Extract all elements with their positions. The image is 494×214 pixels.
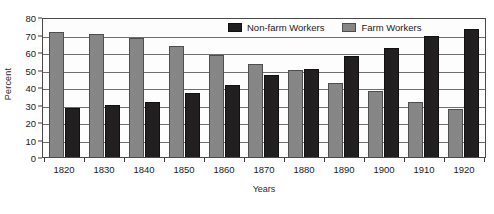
- x-tick-label: 1850: [164, 164, 204, 175]
- legend-label: Non-farm Workers: [247, 22, 324, 33]
- y-tick-label: 30: [25, 100, 36, 111]
- bar-nonfarm-1840: [145, 102, 160, 157]
- x-tick-mark: [364, 158, 365, 162]
- y-tick-label: 20: [25, 118, 36, 129]
- legend-label: Farm Workers: [361, 22, 421, 33]
- x-tick-mark: [124, 158, 125, 162]
- bar-nonfarm-1820: [65, 108, 80, 157]
- year-group-1820: [45, 19, 85, 157]
- year-group-1870: [244, 19, 284, 157]
- bar-farm-1890: [328, 83, 343, 157]
- x-tick-mark: [444, 158, 445, 162]
- x-tick-mark: [484, 158, 485, 162]
- bar-nonfarm-1850: [185, 93, 200, 157]
- bar-farm-1860: [209, 55, 224, 157]
- x-tick-label: 1860: [204, 164, 244, 175]
- bar-farm-1910: [408, 102, 423, 157]
- y-tick-label: 50: [25, 65, 36, 76]
- x-tick-label: 1870: [244, 164, 284, 175]
- year-group-1840: [125, 19, 165, 157]
- bar-farm-1870: [248, 64, 263, 157]
- year-group-1850: [164, 19, 204, 157]
- x-axis-title: Years: [42, 184, 486, 194]
- bar-nonfarm-1900: [384, 48, 399, 157]
- y-tick-label: 40: [25, 83, 36, 94]
- y-tick-label: 60: [25, 48, 36, 59]
- x-tick-label: 1840: [124, 164, 164, 175]
- x-tick-mark: [284, 158, 285, 162]
- x-tick-mark: [204, 158, 205, 162]
- x-axis-labels: 1820183018401850186018701880189019001910…: [42, 164, 486, 175]
- bar-nonfarm-1860: [225, 85, 240, 157]
- x-tick-label: 1890: [324, 164, 364, 175]
- x-tick-mark: [244, 158, 245, 162]
- year-group-1860: [204, 19, 244, 157]
- y-tick-label: 70: [25, 30, 36, 41]
- y-axis-ticks: 01020304050607080: [15, 18, 38, 158]
- bar-farm-1840: [129, 38, 144, 157]
- bar-farm-1830: [89, 34, 104, 157]
- year-group-1890: [324, 19, 364, 157]
- x-tick-label: 1830: [84, 164, 124, 175]
- bar-nonfarm-1910: [424, 36, 439, 157]
- year-group-1910: [403, 19, 443, 157]
- bar-nonfarm-1870: [264, 75, 279, 157]
- x-tick-label: 1820: [44, 164, 84, 175]
- y-tick-label: 80: [25, 13, 36, 24]
- x-tick-mark: [84, 158, 85, 162]
- bar-nonfarm-1880: [304, 69, 319, 157]
- bar-farm-1900: [368, 91, 383, 158]
- year-group-1900: [364, 19, 404, 157]
- x-tick-label: 1910: [404, 164, 444, 175]
- bar-nonfarm-1920: [464, 29, 479, 157]
- year-group-1880: [284, 19, 324, 157]
- bar-farm-1880: [288, 70, 303, 157]
- y-tick-label: 10: [25, 135, 36, 146]
- y-axis-title: Percent: [1, 0, 15, 168]
- legend-entry: Farm Workers: [342, 22, 421, 33]
- bar-chart: Percent 01020304050607080 Non-farm Worke…: [0, 0, 494, 214]
- bar-farm-1850: [169, 46, 184, 157]
- legend-entry: Non-farm Workers: [228, 22, 324, 33]
- x-tick-label: 1920: [444, 164, 484, 175]
- black-swatch-icon: [228, 23, 242, 32]
- legend: Non-farm WorkersFarm Workers: [228, 22, 421, 33]
- year-group-1830: [85, 19, 125, 157]
- x-tick-mark: [324, 158, 325, 162]
- x-tick-mark: [44, 158, 45, 162]
- x-tick-label: 1880: [284, 164, 324, 175]
- bars-layer: [43, 19, 485, 157]
- bar-nonfarm-1890: [344, 56, 359, 157]
- bar-nonfarm-1830: [105, 105, 120, 157]
- bar-farm-1920: [448, 109, 463, 157]
- x-axis-ticks: [42, 158, 486, 163]
- x-tick-mark: [404, 158, 405, 162]
- plot-area: [42, 18, 486, 158]
- y-axis-title-text: Percent: [3, 68, 13, 100]
- y-tick-label: 0: [31, 153, 36, 164]
- bar-farm-1820: [49, 32, 64, 157]
- x-tick-mark: [164, 158, 165, 162]
- x-tick-label: 1900: [364, 164, 404, 175]
- gray-swatch-icon: [342, 23, 356, 32]
- year-group-1920: [443, 19, 483, 157]
